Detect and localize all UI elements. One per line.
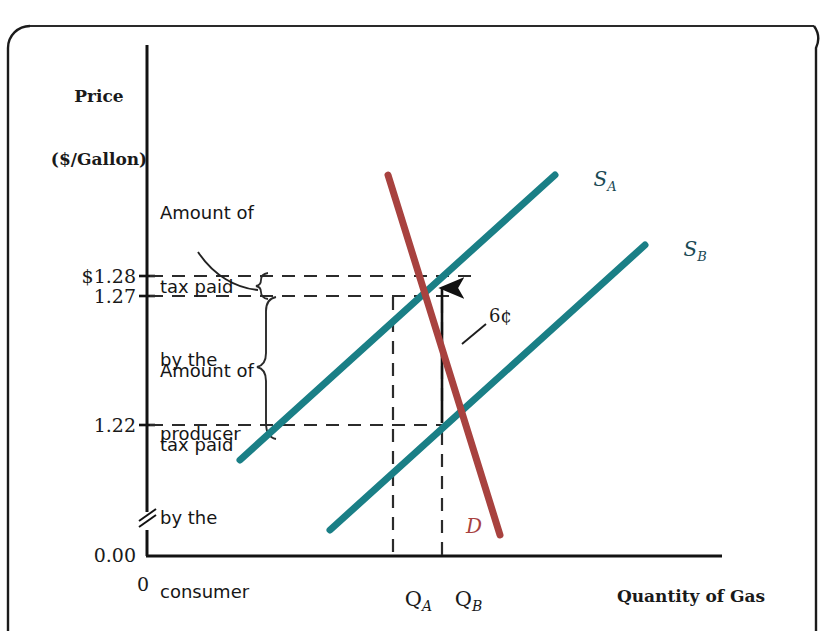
consumer-tax-note-l4: consumer — [160, 580, 290, 605]
consumer-tax-note-l2: tax paid — [160, 433, 290, 458]
curve-label-supply-a-sub: A — [607, 179, 616, 194]
x-tick-label-qb: QB — [428, 563, 482, 631]
x-tick-label-qa-text: Q — [405, 587, 422, 611]
y-tick-label-128: $1.28 — [36, 265, 136, 287]
x-tick-label-qb-sub: B — [472, 598, 482, 614]
curve-label-supply-b: SB — [658, 213, 707, 288]
curve-label-supply-b-sub: B — [697, 249, 707, 264]
curve-demand — [388, 175, 500, 535]
y-axis-title-line1: Price — [44, 86, 154, 107]
x-tick-label-qb-text: Q — [455, 587, 472, 611]
y-axis-title: Price ($/Gallon) — [44, 44, 154, 212]
tax-amount-label: 6¢ — [489, 305, 512, 326]
x-tick-label-qa: QA — [378, 563, 432, 631]
curve-label-supply-b-text: S — [683, 237, 697, 261]
y-tick-label-122: 1.22 — [36, 414, 136, 436]
consumer-tax-note: Amount of tax paid by the consumer — [160, 310, 290, 631]
y-axis-title-line2: ($/Gallon) — [44, 149, 154, 170]
consumer-tax-note-l1: Amount of — [160, 359, 290, 384]
producer-tax-note-l2: tax paid — [160, 275, 290, 300]
curve-label-demand: D — [466, 514, 482, 538]
tax-amount-leader-line — [462, 324, 486, 344]
y-tick-label-000: 0.00 — [36, 544, 136, 566]
curve-label-supply-a-text: S — [593, 167, 607, 191]
frame-right-edge — [814, 26, 818, 631]
x-axis-title: Quantity of Gas — [596, 586, 786, 607]
consumer-tax-note-l3: by the — [160, 506, 290, 531]
origin-label: 0 — [137, 573, 149, 595]
curve-label-supply-a: SA — [568, 143, 617, 218]
y-tick-label-127: 1.27 — [36, 285, 136, 307]
axis-break-mark-1 — [139, 515, 156, 527]
frame-left-edge — [8, 26, 30, 631]
figure-canvas: Price ($/Gallon) Quantity of Gas $1.28 1… — [0, 0, 830, 631]
producer-tax-note-l1: Amount of — [160, 201, 290, 226]
